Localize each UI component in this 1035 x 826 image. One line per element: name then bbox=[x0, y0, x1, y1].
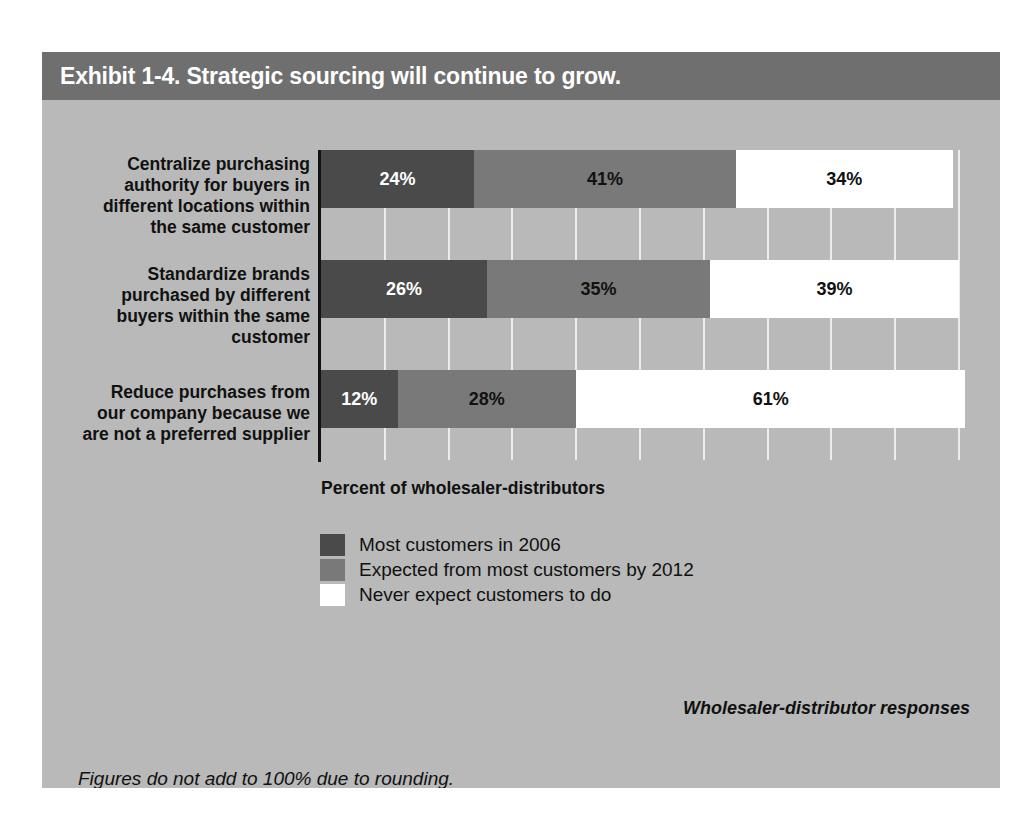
bar-value-label: 26% bbox=[386, 279, 422, 300]
stacked-bar: 12%28%61% bbox=[321, 370, 965, 428]
legend-label: Most customers in 2006 bbox=[359, 534, 561, 556]
bar-segment: 35% bbox=[487, 260, 710, 318]
legend-swatch-icon bbox=[320, 534, 345, 556]
category-label-line: the same customer bbox=[60, 217, 310, 238]
category-label: Standardize brandspurchased by different… bbox=[60, 264, 310, 348]
exhibit-header-band: Exhibit 1-4. Strategic sourcing will con… bbox=[42, 52, 1000, 100]
chart-legend: Most customers in 2006Expected from most… bbox=[320, 532, 694, 607]
category-label-line: Reduce purchases from bbox=[60, 382, 310, 403]
bar-value-label: 41% bbox=[587, 169, 623, 190]
legend-swatch-icon bbox=[320, 559, 345, 581]
source-note: Wholesaler-distributor responses bbox=[683, 698, 970, 719]
category-label-line: buyers within the same bbox=[60, 306, 310, 327]
bar-value-label: 12% bbox=[341, 389, 377, 410]
stacked-bar: 24%41%34% bbox=[321, 150, 953, 208]
legend-label: Expected from most customers by 2012 bbox=[359, 559, 694, 581]
bar-value-label: 39% bbox=[817, 279, 853, 300]
stacked-bar: 26%35%39% bbox=[321, 260, 959, 318]
legend-swatch-icon bbox=[320, 584, 345, 606]
bar-segment: 24% bbox=[321, 150, 474, 208]
category-label-line: Centralize purchasing bbox=[60, 154, 310, 175]
category-label-line: different locations within bbox=[60, 196, 310, 217]
category-label-line: purchased by different bbox=[60, 285, 310, 306]
axis-caption: Percent of wholesaler-distributors bbox=[321, 478, 605, 499]
bar-value-label: 28% bbox=[469, 389, 505, 410]
category-label-line: customer bbox=[60, 327, 310, 348]
exhibit-title: Exhibit 1-4. Strategic sourcing will con… bbox=[60, 63, 621, 90]
bar-segment: 28% bbox=[398, 370, 577, 428]
bar-value-label: 35% bbox=[581, 279, 617, 300]
bar-value-label: 34% bbox=[826, 169, 862, 190]
category-label-line: are not a preferred supplier bbox=[60, 424, 310, 445]
bar-segment: 41% bbox=[474, 150, 736, 208]
bar-segment: 12% bbox=[321, 370, 398, 428]
category-label-line: authority for buyers in bbox=[60, 175, 310, 196]
category-label-line: Standardize brands bbox=[60, 264, 310, 285]
legend-label: Never expect customers to do bbox=[359, 584, 611, 606]
bar-segment: 61% bbox=[576, 370, 965, 428]
category-label-line: our company because we bbox=[60, 403, 310, 424]
category-label: Reduce purchases fromour company because… bbox=[60, 382, 310, 445]
bar-segment: 26% bbox=[321, 260, 487, 318]
category-label: Centralize purchasingauthority for buyer… bbox=[60, 154, 310, 238]
bar-segment: 39% bbox=[710, 260, 959, 318]
chart-plot-area: Centralize purchasingauthority for buyer… bbox=[42, 100, 1000, 788]
bar-value-label: 24% bbox=[380, 169, 416, 190]
legend-item[interactable]: Expected from most customers by 2012 bbox=[320, 557, 694, 582]
bar-value-label: 61% bbox=[753, 389, 789, 410]
rounding-note: Figures do not add to 100% due to roundi… bbox=[78, 768, 454, 788]
bar-segment: 34% bbox=[736, 150, 953, 208]
legend-item[interactable]: Most customers in 2006 bbox=[320, 532, 694, 557]
exhibit-card: Exhibit 1-4. Strategic sourcing will con… bbox=[42, 52, 1000, 788]
legend-item[interactable]: Never expect customers to do bbox=[320, 582, 694, 607]
